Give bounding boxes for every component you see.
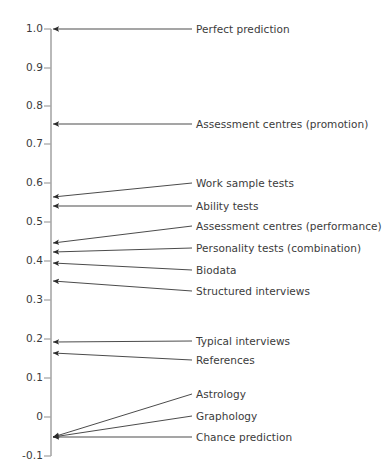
- series-label: Ability tests: [196, 200, 259, 212]
- series-label: Typical interviews: [196, 335, 290, 347]
- series-label: References: [196, 354, 255, 366]
- series-label: Assessment centres (performance): [196, 220, 382, 232]
- y-axis-tick-label: 0.6: [5, 177, 43, 188]
- leader-arrow: [53, 183, 192, 197]
- leader-arrow: [53, 341, 192, 342]
- leader-arrow: [53, 226, 192, 243]
- y-axis-tick-label: 0.7: [5, 138, 43, 149]
- y-axis-tick-label: 0: [5, 411, 43, 422]
- leader-arrow: [53, 281, 192, 291]
- y-axis-tick-labels: 1.00.90.80.70.60.50.40.30.20.10-0.1: [0, 0, 43, 473]
- y-axis-tick-label: 1.0: [5, 23, 43, 34]
- leader-arrow: [53, 263, 192, 270]
- y-axis-tick-label: -0.1: [5, 450, 43, 461]
- series-label: Perfect prediction: [196, 23, 290, 35]
- y-axis-tick-label: 0.2: [5, 333, 43, 344]
- y-axis-tick-label: 0.9: [5, 62, 43, 73]
- leader-arrow: [53, 248, 192, 252]
- leader-arrow: [53, 416, 192, 437]
- series-label: Assessment centres (promotion): [196, 118, 368, 130]
- predictive-validity-chart: 1.00.90.80.70.60.50.40.30.20.10-0.1 Perf…: [0, 0, 385, 473]
- y-axis: [44, 29, 51, 456]
- series-label: Structured interviews: [196, 285, 310, 297]
- series-label: Biodata: [196, 264, 237, 276]
- series-label: Work sample tests: [196, 177, 294, 189]
- annotation-arrows: [53, 29, 192, 437]
- series-label: Astrology: [196, 388, 246, 400]
- series-label: Graphology: [196, 410, 257, 422]
- y-axis-tick-label: 0.8: [5, 100, 43, 111]
- y-axis-tick-label: 0.4: [5, 255, 43, 266]
- y-axis-tick-label: 0.3: [5, 294, 43, 305]
- leader-arrow: [53, 394, 192, 437]
- y-axis-tick-label: 0.5: [5, 216, 43, 227]
- leader-arrow: [53, 353, 192, 360]
- y-axis-tick-label: 0.1: [5, 372, 43, 383]
- series-label: Chance prediction: [196, 431, 292, 443]
- series-label-list: Perfect predictionAssessment centres (pr…: [196, 0, 385, 473]
- series-label: Personality tests (combination): [196, 242, 361, 254]
